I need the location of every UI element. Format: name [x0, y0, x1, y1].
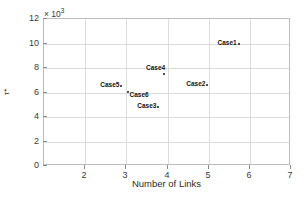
y-tick-mark-8 [43, 67, 47, 68]
x-tick-mark-2 [84, 165, 85, 169]
x-tick-mark-6 [249, 165, 250, 169]
y-tick-label-4: 4 [16, 111, 39, 121]
gridline-horizontal-8 [44, 68, 289, 69]
data-point-case5 [120, 85, 122, 87]
gridline-horizontal-10 [44, 44, 289, 45]
plot-area: Case1Case2Case3Case4Case5Case6 [43, 18, 290, 165]
data-point-case1 [238, 43, 240, 45]
data-point-label-case3: Case3 [137, 101, 156, 108]
y-tick-mark-12 [43, 18, 47, 19]
data-point-case6 [127, 91, 129, 93]
data-point-label-case5: Case5 [100, 81, 119, 88]
y-tick-mark-0 [43, 165, 47, 166]
gridline-horizontal-4 [44, 117, 289, 118]
y-tick-mark-2 [43, 141, 47, 142]
data-point-label-case6: Case6 [130, 90, 149, 97]
x-tick-mark-5 [208, 165, 209, 169]
x-tick-mark-7 [290, 165, 291, 169]
gridline-horizontal-6 [44, 93, 289, 94]
x-tick-mark-4 [167, 165, 168, 169]
x-axis-label: Number of Links [43, 178, 290, 189]
data-point-case3 [157, 106, 159, 108]
data-point-case2 [206, 84, 208, 86]
data-point-label-case4: Case4 [146, 64, 165, 71]
gridline-horizontal-2 [44, 142, 289, 143]
y-tick-label-6: 6 [16, 87, 39, 97]
scatter-plot-figure: × 103 τ* Case1Case2Case3Case4Case5Case6 … [0, 0, 307, 197]
y-tick-label-8: 8 [16, 62, 39, 72]
y-tick-label-0: 0 [16, 160, 39, 170]
y-tick-mark-4 [43, 116, 47, 117]
x-tick-mark-3 [125, 165, 126, 169]
data-point-label-case2: Case2 [186, 80, 205, 87]
y-tick-label-10: 10 [16, 38, 39, 48]
data-point-label-case1: Case1 [218, 39, 237, 46]
data-point-case4 [163, 73, 165, 75]
y-tick-label-2: 2 [16, 136, 39, 146]
y-tick-mark-10 [43, 43, 47, 44]
y-axis-label: τ* [2, 89, 11, 95]
y-tick-mark-6 [43, 92, 47, 93]
y-tick-label-12: 12 [16, 13, 39, 23]
exponent-power: 3 [61, 7, 65, 14]
